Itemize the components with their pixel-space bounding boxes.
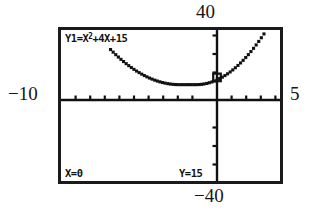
parabola-curve (109, 32, 266, 86)
trace-y-readout: Y=15 (179, 168, 202, 179)
axes-group (61, 30, 280, 181)
window-xmax-label: 5 (290, 84, 300, 103)
window-ymax-label: 40 (196, 2, 215, 21)
graph-plot-area (61, 30, 280, 181)
window-ymin-label: −40 (194, 186, 224, 205)
equation-suffix: +4X+15 (92, 32, 127, 45)
window-xmin-label: −10 (8, 84, 38, 103)
equation-label: Y1=X2+4X+15 (65, 33, 127, 44)
calculator-screen[interactable]: Y1=X2+4X+15 X=0 Y=15 (58, 27, 283, 184)
equation-prefix: Y1=X (65, 32, 88, 45)
trace-x-readout: X=0 (65, 168, 82, 179)
graphing-calculator-screenshot: 40 −40 −10 5 (0, 0, 310, 212)
